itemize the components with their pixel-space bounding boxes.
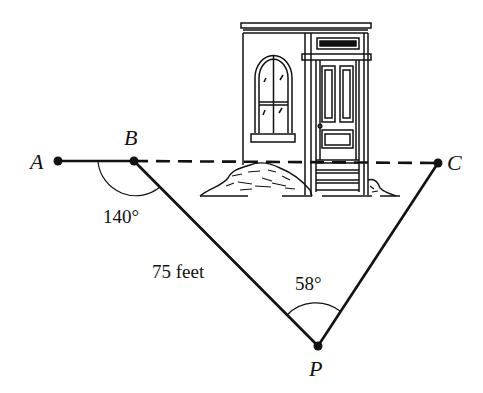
point-A (54, 157, 63, 166)
angle-label-P: 58° (295, 274, 322, 293)
label-A: A (30, 151, 43, 173)
point-B (130, 157, 139, 166)
segment-BC-dashed (134, 161, 438, 163)
angle-arc-P (287, 303, 340, 315)
side-label-BP: 75 feet (152, 262, 204, 281)
point-C (434, 159, 443, 168)
house-illustration (200, 23, 400, 196)
label-B: B (124, 127, 137, 149)
angle-label-B: 140° (103, 207, 139, 226)
label-P: P (309, 358, 322, 380)
points (54, 157, 443, 351)
point-P (314, 342, 323, 351)
diagram-canvas (0, 0, 483, 393)
label-C: C (447, 152, 462, 174)
